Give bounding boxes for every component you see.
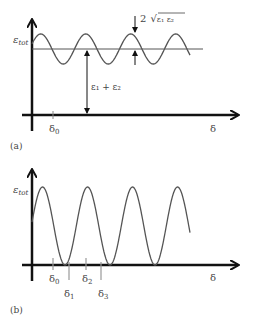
panel-label-b: (b) [10,305,23,315]
amplitude-annotation: 2√ε₁ ε₂ [140,13,174,24]
y-axis-label-b: εtot [13,184,28,197]
wave-b [32,187,190,265]
tick-label-delta3-b: δ3 [98,288,109,301]
diagram-canvas: εtot δ δ0 2√ε₁ ε₂ ε₁ + ε₂ (a) εtot δ δ0 … [0,0,255,334]
panel-label-a: (a) [10,141,22,151]
mean-annotation: ε₁ + ε₂ [91,82,121,92]
panel-a: εtot δ δ0 2√ε₁ ε₂ ε₁ + ε₂ (a) [10,13,238,151]
x-axis-label-b: δ [210,272,216,283]
tick-label-delta0-b: δ0 [49,273,60,286]
panel-b: εtot δ δ0 δ1 δ2 δ3 (b) [10,170,238,315]
x-axis-label-a: δ [210,123,216,134]
tick-label-delta2-b: δ2 [82,273,93,286]
tick-label-delta0-a: δ0 [49,123,60,136]
y-axis-label-a: εtot [13,34,28,47]
tick-label-delta1-b: δ1 [64,288,75,301]
